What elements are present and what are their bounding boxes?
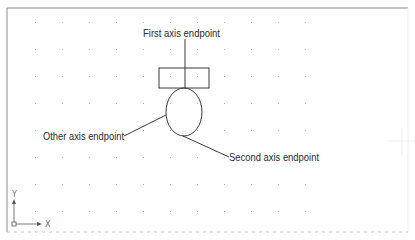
drawing-canvas[interactable]: First axis endpoint Other axis endpoint …: [0, 0, 415, 240]
second-axis-leader-line: [183, 136, 229, 157]
other-axis-leader-line: [124, 115, 166, 136]
ucs-icon: Y X: [11, 190, 51, 229]
first-axis-endpoint-label: First axis endpoint: [143, 27, 220, 39]
rectangle-shape[interactable]: [159, 68, 209, 88]
ucs-y-arrow-icon: [12, 199, 16, 204]
grid-dots: [35, 22, 306, 212]
ucs-y-label: Y: [11, 190, 17, 199]
ucs-x-label: X: [45, 220, 51, 229]
ucs-origin-box: [12, 222, 16, 226]
other-axis-endpoint-label: Other axis endpoint: [43, 130, 124, 142]
ucs-x-arrow-icon: [37, 222, 42, 226]
crosshair-cursor-icon: [388, 128, 415, 155]
second-axis-endpoint-label: Second axis endpoint: [229, 151, 319, 163]
ellipse-shape[interactable]: [166, 88, 202, 136]
